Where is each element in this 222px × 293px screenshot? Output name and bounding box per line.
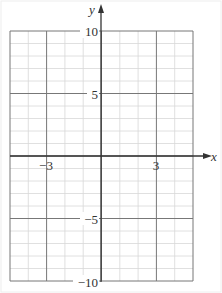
y-axis-label: y bbox=[87, 2, 95, 17]
x-tick-neg3: −3 bbox=[39, 158, 53, 173]
x-axis-label: x bbox=[210, 149, 217, 164]
x-tick-3: 3 bbox=[153, 158, 160, 173]
coordinate-grid-figure: y x 10 5 −5 −10 −3 3 bbox=[0, 0, 222, 293]
y-axis-arrow-icon bbox=[98, 4, 104, 13]
outer-frame bbox=[1, 1, 221, 292]
y-tick-neg10: −10 bbox=[78, 275, 98, 290]
axes bbox=[10, 4, 212, 282]
y-tick-10: 10 bbox=[85, 24, 98, 39]
coordinate-plane: y x 10 5 −5 −10 −3 3 bbox=[0, 0, 222, 293]
y-tick-5: 5 bbox=[92, 87, 99, 102]
y-tick-neg5: −5 bbox=[84, 212, 98, 227]
